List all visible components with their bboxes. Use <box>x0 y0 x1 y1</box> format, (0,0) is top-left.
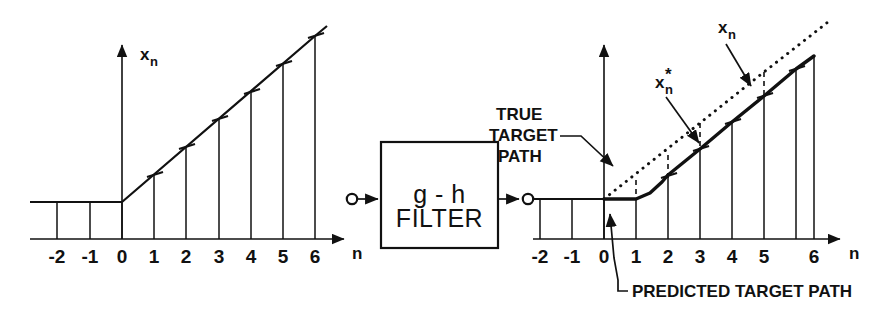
output-chart-xtick: 1 <box>631 246 642 267</box>
input-chart-yaxis-label: x <box>140 45 150 64</box>
output-chart-xtick: 3 <box>695 246 706 267</box>
predicted-target-path-label: PREDICTED TARGET PATH <box>632 282 852 301</box>
xn-star-label-sub: n <box>665 82 673 97</box>
output-chart-xaxis-label: n <box>849 244 859 263</box>
output-chart-true-path <box>604 22 828 199</box>
output-terminal-icon[interactable] <box>523 194 533 204</box>
output-chart-predicted-curve <box>668 56 814 175</box>
input-chart-xtick: 0 <box>117 246 128 267</box>
output-chart: -2 -1 0 1 2 3 4 5 6 n <box>532 22 860 267</box>
true-target-path-line1: TRUE <box>496 105 542 124</box>
xn-label: x <box>718 18 728 37</box>
output-chart-xtick: 5 <box>759 246 770 267</box>
predicted-target-path-leader-arrow-icon <box>610 214 628 291</box>
xn-star-label-star: * <box>665 65 672 84</box>
input-chart-xtick: -2 <box>49 246 66 267</box>
true-target-path-line2: TARGET <box>489 126 558 145</box>
input-terminal-icon[interactable] <box>347 194 357 204</box>
filter-label-line2: FILTER <box>396 204 483 232</box>
input-chart-xtick: 3 <box>214 246 225 267</box>
true-target-path-leader-arrow-icon <box>560 136 613 166</box>
figure-canvas: -2 -1 0 1 2 3 4 5 6 n x n g - h FILTER <box>0 0 885 312</box>
input-chart-xtick: 2 <box>181 246 192 267</box>
input-chart-xtick: 5 <box>278 246 289 267</box>
xn-leader-arrow-icon <box>726 44 751 86</box>
xn-label-sub: n <box>728 27 736 42</box>
input-chart-yaxis-label-sub: n <box>150 54 158 69</box>
input-chart-xaxis-label: n <box>352 244 362 263</box>
xn-star-label: x <box>655 73 665 92</box>
output-chart-xtick: -2 <box>532 246 549 267</box>
input-chart: -2 -1 0 1 2 3 4 5 6 n x n <box>30 26 362 267</box>
true-target-path-line3: PATH <box>498 147 542 166</box>
input-chart-xtick: 6 <box>310 246 321 267</box>
input-chart-xtick: 1 <box>149 246 160 267</box>
output-chart-xtick: 0 <box>599 246 610 267</box>
input-chart-xtick: -1 <box>82 246 99 267</box>
output-chart-xtick: 2 <box>663 246 674 267</box>
output-chart-xtick: 4 <box>727 246 738 267</box>
diagram-svg: -2 -1 0 1 2 3 4 5 6 n x n g - h FILTER <box>0 0 885 312</box>
input-chart-xtick: 4 <box>246 246 257 267</box>
output-chart-predicted-curve-knee <box>604 175 668 199</box>
output-chart-xtick: 6 <box>809 246 820 267</box>
output-chart-xtick: -1 <box>564 246 581 267</box>
